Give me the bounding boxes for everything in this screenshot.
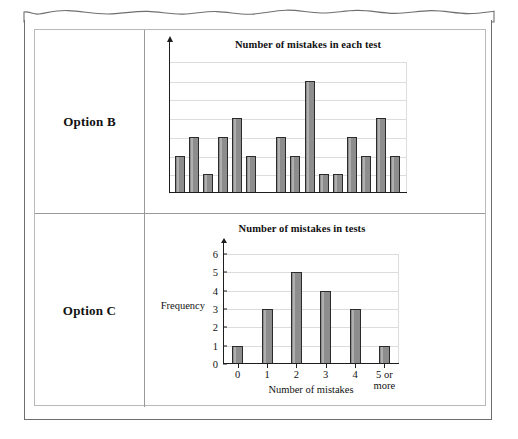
x-tick-label: 3: [323, 369, 328, 380]
bar: [175, 156, 185, 193]
option-c-gridlines: [223, 254, 399, 364]
x-tick-label: 4: [352, 369, 357, 380]
x-tick-mark: [267, 364, 268, 368]
bar: [347, 137, 357, 193]
bar: [218, 137, 228, 193]
option-c-bar-chart: Number of mistakes in tests Frequency 01…: [145, 214, 485, 407]
y-tick-label: 0: [213, 359, 223, 370]
x-tick-label: 2: [294, 369, 299, 380]
option-c-chart-cell: Number of mistakes in tests Frequency 01…: [145, 214, 485, 407]
y-axis-arrow-icon: [167, 36, 173, 42]
option-b-label-cell: Option B: [35, 30, 145, 213]
option-c-label: Option C: [63, 303, 116, 319]
option-c-chart-title: Number of mistakes in tests: [159, 223, 445, 234]
bar: [262, 309, 273, 364]
gridline: [223, 291, 398, 292]
x-tick-mark: [355, 364, 356, 368]
x-tick-mark: [384, 364, 385, 368]
y-tick-label: 4: [213, 285, 223, 296]
x-tick-label: 0: [235, 369, 240, 380]
x-tick-mark: [326, 364, 327, 368]
bar: [320, 291, 331, 364]
options-table: Option B Number of mistakes in each test…: [34, 29, 486, 406]
bar: [376, 118, 386, 193]
bar: [291, 272, 302, 364]
option-c-y-axis: [223, 242, 224, 364]
bar: [379, 346, 390, 364]
option-b-y-axis: [169, 40, 170, 193]
bar: [361, 156, 371, 193]
option-c-x-axis-label: Number of mistakes: [203, 384, 419, 395]
option-c-chart-frame: 0123456 012345 or more: [203, 240, 419, 380]
option-b-chart-title: Number of mistakes in each test: [145, 39, 471, 50]
option-c-plot-area: 0123456 012345 or more: [223, 254, 399, 364]
option-b-plot-area: [169, 62, 407, 193]
bar: [189, 137, 199, 193]
gridline: [223, 309, 398, 310]
x-tick-mark: [296, 364, 297, 368]
y-axis-arrow-icon: [221, 238, 227, 243]
option-b-bars: [169, 62, 407, 193]
gridline: [223, 272, 398, 273]
bar: [305, 81, 315, 193]
table-row: Option C Number of mistakes in tests Fre…: [35, 214, 485, 407]
option-b-x-axis: [169, 192, 407, 193]
gridline: [223, 346, 398, 347]
option-b-label: Option B: [63, 114, 116, 130]
option-c-label-cell: Option C: [35, 214, 145, 407]
bar: [333, 174, 343, 193]
bar: [203, 174, 213, 193]
y-tick-label: 3: [213, 304, 223, 315]
table-row: Option B Number of mistakes in each test: [35, 30, 485, 214]
bar: [232, 118, 242, 193]
option-c-y-axis-label: Frequency: [145, 300, 205, 311]
bar: [319, 174, 329, 193]
x-tick-mark: [238, 364, 239, 368]
x-tick-label: 1: [264, 369, 269, 380]
y-tick-label: 5: [213, 267, 223, 278]
bar: [232, 346, 243, 364]
y-tick-label: 1: [213, 340, 223, 351]
bar: [350, 309, 361, 364]
gridline: [223, 327, 398, 328]
bar: [290, 156, 300, 193]
bar: [276, 137, 286, 193]
y-tick-label: 6: [213, 249, 223, 260]
option-c-x-axis: [223, 363, 399, 364]
y-tick-label: 2: [213, 322, 223, 333]
option-b-chart-cell: Number of mistakes in each test: [145, 30, 485, 213]
bar: [390, 156, 400, 193]
bar: [246, 156, 256, 193]
gridline: [223, 254, 398, 255]
option-b-bar-chart: Number of mistakes in each test: [145, 30, 485, 213]
